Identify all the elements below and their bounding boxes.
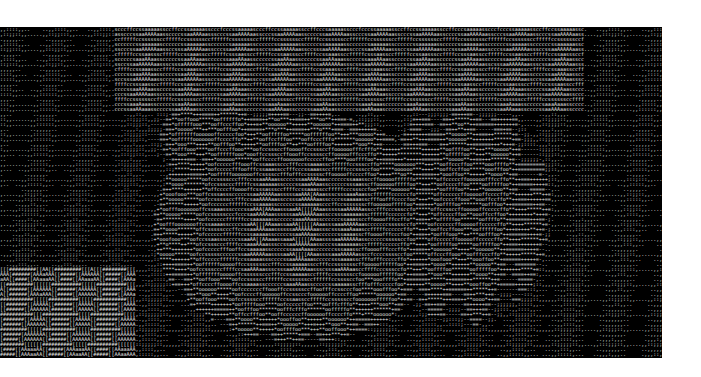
ascii-row: #####[[AAAaaAA[[#####[[AAaaAA[[#####[[AA… xyxy=(0,352,662,357)
ascii-art-image: ,,::::,,.. ..,,::::,,.. ..,,::::,scccffc… xyxy=(0,27,662,358)
